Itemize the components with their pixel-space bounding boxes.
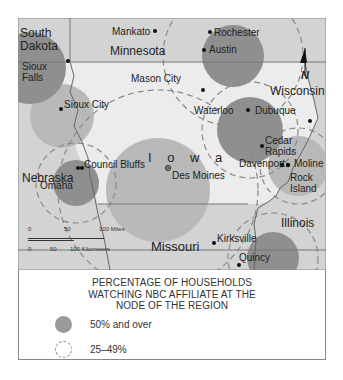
legend: PERCENTAGE OF HOUSEHOLDS WATCHING NBC AF…	[18, 270, 326, 360]
city-mankato: Mankato	[112, 26, 150, 37]
label-south-dakota: SouthDakota	[20, 27, 58, 53]
north-label: N	[301, 69, 309, 81]
scale-bar: 0 50 100 Miles 0 50 100 Kilometers	[28, 226, 128, 266]
city-council-bluffs: Council Bluffs	[84, 159, 145, 170]
city-sioux-city: Sioux City	[64, 99, 109, 110]
city-quincy: Quincy	[239, 252, 270, 263]
city-kirksville: Kirksville	[217, 233, 256, 244]
city-cedar-rapids: Cedar Rapids	[265, 135, 326, 157]
solid-circle-icon	[55, 316, 72, 333]
region-map: SouthDakota Minnesota Wisconsin I o w a …	[18, 18, 326, 270]
label-minnesota: Minnesota	[110, 44, 165, 58]
city-des-moines: Des Moines	[172, 170, 225, 181]
legend-title: PERCENTAGE OF HOUSEHOLDS WATCHING NBC AF…	[19, 277, 325, 312]
city-waterloo: Waterloo	[194, 105, 234, 116]
label-wisconsin: Wisconsin	[270, 84, 325, 98]
label-missouri: Missouri	[151, 239, 199, 254]
label-iowa: I o w a	[148, 150, 228, 165]
label-illinois: Illinois	[281, 216, 314, 230]
city-rock-island: RockIsland	[290, 172, 317, 194]
legend-item-25-49: 25–49%	[55, 341, 127, 358]
dashed-circle-icon	[55, 341, 72, 358]
city-omaha: Omaha	[40, 180, 73, 191]
city-rochester: Rochester	[214, 27, 260, 38]
city-davenport: Davenport	[239, 158, 285, 169]
city-sioux-falls: SiouxFalls	[22, 61, 47, 83]
city-moline: Moline	[294, 158, 323, 169]
legend-item-50-and-over: 50% and over	[55, 316, 152, 333]
city-austin: Austin	[209, 44, 237, 55]
city-dubuque: Dubuque	[255, 105, 296, 116]
city-mason-city: Mason City	[131, 73, 181, 84]
